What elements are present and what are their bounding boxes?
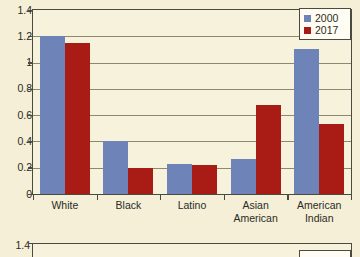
legend: 2000 2017 [299, 8, 351, 40]
bar-chart-figure: 00.20.40.60.811.21.4 WhiteBlackLatinoAsi… [0, 0, 360, 232]
bar-2017 [128, 168, 153, 194]
legend-item: 2000 [304, 12, 346, 24]
next-chart-figure-partial: 1.4 [0, 232, 360, 257]
bar-2017 [192, 165, 217, 194]
x-tick-label: AmericanIndian [274, 199, 360, 224]
legend-label-2000: 2000 [315, 13, 338, 24]
x-tick-label-line: American [274, 199, 360, 212]
bar-2017 [319, 124, 344, 194]
y-axis: 00.20.40.60.811.21.4 [0, 9, 32, 195]
legend-swatch-2000 [304, 15, 311, 22]
legend-swatch-2017 [304, 27, 311, 34]
next-chart-y-tick-label: 1.4 [4, 239, 30, 251]
bar-2017 [256, 105, 281, 194]
legend-item: 2017 [304, 24, 346, 36]
legend-label-2017: 2017 [315, 25, 338, 36]
bar-group [40, 10, 90, 194]
bar-2000 [294, 49, 319, 194]
bar-2000 [103, 141, 128, 194]
x-tick-label-line: Indian [274, 212, 360, 225]
bar-group [103, 10, 153, 194]
bar-2000 [167, 164, 192, 194]
bar-group [167, 10, 217, 194]
bar-2000 [40, 36, 65, 194]
bar-group [231, 10, 281, 194]
next-chart-legend [299, 250, 351, 257]
bar-2017 [65, 43, 90, 194]
bar-2000 [231, 159, 256, 194]
